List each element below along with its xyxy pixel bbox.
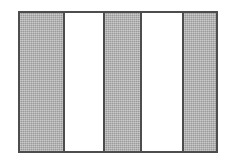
stripe-2-unshaded: [65, 13, 103, 151]
stripe-4-unshaded: [142, 13, 182, 151]
stripe-divider-1: [63, 13, 65, 151]
stripe-3-shaded: [105, 13, 140, 151]
striped-rectangle-frame: [18, 11, 218, 153]
figure-canvas: [0, 0, 225, 164]
stripe-divider-2: [103, 13, 105, 151]
stripe-divider-3: [140, 13, 142, 151]
stripe-divider-4: [182, 13, 184, 151]
stripe-1-shaded: [20, 13, 63, 151]
stripe-5-shaded: [184, 13, 216, 151]
